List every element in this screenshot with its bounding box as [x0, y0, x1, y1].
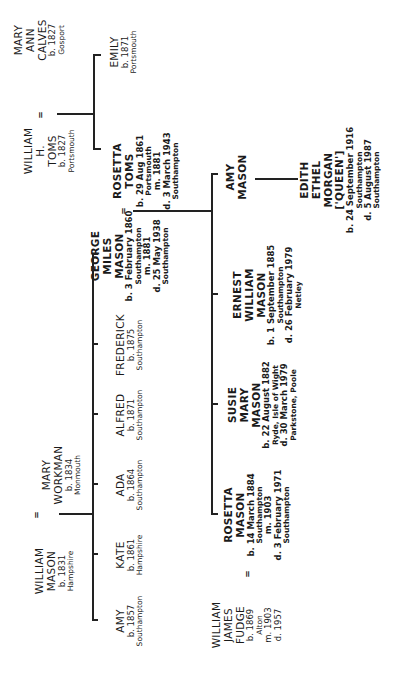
child-tick: [211, 293, 218, 295]
death-place: Netley: [295, 245, 303, 345]
person-name-line: AMY: [225, 154, 237, 199]
sibling-bar: [92, 253, 94, 621]
person-name-line: WILLIAM: [23, 128, 35, 175]
person-ernest-william-mason: ERNEST WILLIAM MASON b. 1 September 1885…: [232, 245, 303, 345]
birth-place: Southampton: [136, 390, 144, 441]
birth-place: Portsmouth: [68, 128, 76, 175]
death-place: Parkstone, Poole: [290, 361, 298, 449]
person-william-mason: WILLIAM MASON b. 1831 Hampshire: [34, 548, 75, 595]
person-name-line: MASON: [46, 548, 58, 595]
birth-place: Hampshire: [67, 548, 75, 595]
child-tick: [211, 513, 218, 515]
marriage-symbol: =: [242, 570, 252, 578]
birth-place: Portsmouth: [130, 30, 138, 73]
person-name-line: EDITH: [299, 127, 311, 233]
person-name-line: WORKMAN: [53, 445, 65, 504]
person-william-h-toms: WILLIAM H. TOMS b. 1827 Portsmouth: [23, 128, 76, 175]
person-name-line: KATE: [115, 535, 127, 576]
person-mary-workman: MARY WORKMAN b. 1834 Monmouth: [41, 445, 82, 504]
child-tick: [92, 413, 98, 415]
death-place: Southampton: [283, 470, 291, 561]
child-tick: [92, 553, 98, 555]
sibling-bar: [211, 173, 213, 515]
person-name-line: ROSETTA: [223, 470, 235, 561]
person-ada-mason: ADA b. 1864 Southampton: [115, 460, 145, 511]
person-name-line: ADA: [115, 460, 127, 511]
birth-place: Southampton: [136, 314, 144, 376]
person-name-line: ALFRED: [115, 390, 127, 441]
person-name-line: SUSIE: [227, 361, 239, 449]
person-george-miles-mason: GEORGE MILES MASON b. 3 February 1860 So…: [90, 211, 171, 302]
person-emily-toms: EMILY b. 1871 Portsmouth: [109, 30, 139, 73]
marriage-symbol: =: [35, 111, 45, 119]
person-amy-mason: AMY MASON: [225, 154, 249, 199]
child-tick: [211, 173, 218, 175]
person-alfred-mason: ALFRED b. 1871 Southampton: [115, 390, 145, 441]
person-name-line: H.: [35, 128, 47, 175]
person-rosetta-mason: ROSETTA MASON b. 14 March 1884 Southampt…: [223, 470, 292, 561]
person-mary-ann-calves: MARY ANN CALVES b. 1827 Gosport: [13, 19, 66, 61]
family-tree-page: MARY ANN CALVES b. 1827 Gosport = WILLIA…: [0, 0, 404, 679]
person-name-line: JAMES: [223, 602, 235, 649]
person-name-line: TOMS: [123, 132, 135, 209]
sibling-bar: [93, 54, 95, 150]
person-amy-mason-1857: AMY b. 1857 Southampton: [115, 596, 145, 647]
birth-place: Southampton: [136, 460, 144, 511]
descent-line: [59, 513, 93, 515]
child-tick: [93, 148, 101, 150]
child-tick: [92, 253, 98, 255]
person-susie-mary-mason: SUSIE MARY MASON b. 22 August 1882 Ryde,…: [227, 361, 298, 449]
descent-line: [133, 210, 212, 212]
person-name-line: WILLIAM: [34, 548, 46, 595]
person-william-james-fudge: WILLIAM JAMES FUDGE b. 1869 Alton m. 190…: [211, 602, 283, 649]
death-place: Southampton: [172, 132, 180, 209]
person-name-line: ANN: [25, 19, 37, 61]
death-place: Southampton: [373, 127, 381, 233]
child-tick: [92, 483, 98, 485]
birth-place: Gosport: [58, 19, 66, 61]
person-name-line: MASON: [237, 154, 249, 199]
child-tick: [93, 54, 101, 56]
death-info: d. 1957: [274, 602, 284, 649]
person-name-line: EMILY: [109, 30, 121, 73]
person-frederick-mason: FREDERICK b. 1875 Southampton: [115, 314, 145, 376]
person-rosetta-toms: ROSETTA TOMS b. 29 Aug 1861 Portsmouth m…: [112, 132, 181, 209]
descent-line: [255, 178, 298, 180]
person-name-line: AMY: [115, 596, 127, 647]
person-edith-ethel-morgan: EDITH ETHEL MORGAN ['QUEEN'] b. 24 Septe…: [299, 127, 382, 233]
person-kate-mason: KATE b. 1861 Hampshire: [115, 535, 145, 576]
birth-place: Hampshire: [136, 535, 144, 576]
birth-place: Southampton: [136, 596, 144, 647]
person-name-line: WILLIAM: [244, 245, 256, 345]
death-place: Southampton: [162, 211, 170, 302]
birth-place: Monmouth: [74, 445, 82, 504]
person-name-line: WILLIAM: [211, 602, 223, 649]
person-name-line: MILES: [101, 211, 113, 302]
person-name-line: ROSETTA: [112, 132, 124, 209]
person-name-line: ETHEL: [310, 127, 322, 233]
child-tick: [92, 343, 98, 345]
person-name-line: MARY: [41, 445, 53, 504]
person-name-line: MARY: [239, 361, 251, 449]
person-name-line: MARY: [13, 19, 25, 61]
child-tick: [92, 619, 98, 621]
person-name-line: MASON: [234, 470, 246, 561]
person-name-line: FREDERICK: [115, 314, 127, 376]
child-tick: [211, 403, 218, 405]
person-name-line: ERNEST: [232, 245, 244, 345]
descent-line: [57, 113, 94, 115]
marriage-symbol: =: [31, 511, 41, 519]
